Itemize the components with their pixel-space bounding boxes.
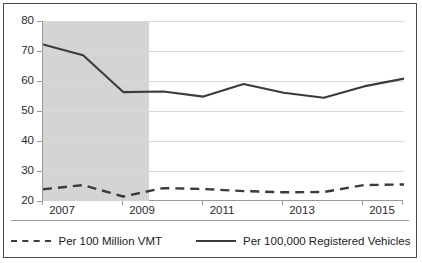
legend-entry-registered-vehicles: Per 100,000 Registered Vehicles (196, 235, 411, 247)
x-tick-label: 2009 (119, 204, 165, 216)
x-tick-label: 2013 (279, 204, 325, 216)
y-tick-label: 50 (6, 105, 34, 116)
y-tick-label: 30 (6, 165, 34, 176)
y-tick-label: 80 (6, 15, 34, 26)
series-line-vmt (43, 185, 404, 197)
legend-divider (11, 220, 409, 221)
series-plot (43, 21, 404, 201)
x-tick-label: 2011 (199, 204, 245, 216)
y-tick-label: 40 (6, 135, 34, 146)
chart-frame: 80 70 60 50 40 30 20 (3, 3, 417, 258)
series-line-registered-vehicles (43, 44, 404, 97)
legend-label-registered-vehicles: Per 100,000 Registered Vehicles (243, 235, 411, 247)
x-tick-label: 2007 (39, 204, 85, 216)
y-tick-label: 60 (6, 75, 34, 86)
y-tick-label: 70 (6, 45, 34, 56)
dashed-line-swatch-icon (11, 240, 51, 242)
x-tick-label: 2015 (359, 204, 405, 216)
solid-line-swatch-icon (196, 240, 236, 242)
chart-legend: Per 100 Million VMT Per 100,000 Register… (4, 228, 418, 254)
legend-entry-vmt: Per 100 Million VMT (11, 235, 162, 247)
y-tick-label: 20 (6, 195, 34, 206)
plot-area (42, 21, 403, 201)
legend-label-vmt: Per 100 Million VMT (58, 235, 162, 247)
